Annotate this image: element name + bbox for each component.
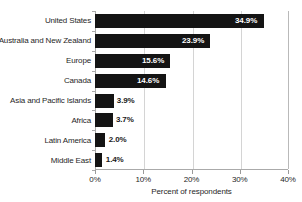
bar [95,113,113,127]
x-tick [95,170,96,174]
category-label: Australia and New Zealand [0,31,91,51]
bar-value-label: 15.6% [142,54,164,68]
x-tick-label: 40% [268,175,302,184]
x-tick-label: 0% [75,175,115,184]
bar-row: 3.9% [95,91,288,111]
bar-value-label: 3.7% [116,113,134,127]
x-tick [288,170,289,174]
gridline-40 [288,11,289,169]
bar-value-label: 1.4% [106,153,124,167]
bar [95,153,102,167]
category-axis: United States Australia and New Zealand … [0,11,91,170]
bar-value-label: 3.9% [117,94,135,108]
category-label: Europe [0,51,91,71]
category-label: Africa [0,110,91,130]
bar-value-label: 14.6% [137,74,159,88]
bar-value-label: 34.9% [235,14,257,28]
x-tick [240,170,241,174]
category-label: United States [0,11,91,31]
bar-row: 2.0% [95,130,288,150]
bar-row: 14.6% [95,71,288,91]
bar-value-label: 2.0% [109,133,127,147]
bar-row: 15.6% [95,51,288,71]
category-label: Latin America [0,130,91,150]
x-tick [143,170,144,174]
bar-row: 23.9% [95,31,288,51]
bar-value-label: 23.9% [182,34,204,48]
x-tick-label: 10% [123,175,163,184]
bar-series: 34.9% 23.9% 15.6% 14.6% 3.9% 3.7% 2.0% [95,11,288,170]
x-axis-title: Percent of respondents [95,187,288,196]
category-label: Asia and Pacific Islands [0,91,91,111]
category-label: Middle East [0,150,91,170]
bar-row: 34.9% [95,11,288,31]
bar [95,133,105,147]
bar-row: 3.7% [95,110,288,130]
x-tick-label: 20% [172,175,212,184]
x-tick [192,170,193,174]
x-tick-label: 30% [220,175,260,184]
bar-chart: United States Australia and New Zealand … [0,0,302,202]
category-label: Canada [0,71,91,91]
bar-row: 1.4% [95,150,288,170]
bar [95,94,114,108]
